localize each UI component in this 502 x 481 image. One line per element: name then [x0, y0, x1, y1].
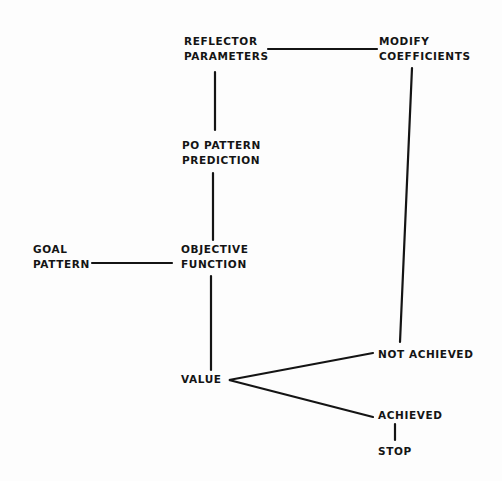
node-label-line1: MODIFY: [379, 34, 471, 49]
node-label-line2: PATTERN: [33, 257, 90, 272]
node-label-line1: REFLECTOR: [184, 34, 269, 49]
node-label: STOP: [378, 444, 412, 459]
node-label-line1: OBJECTIVE: [181, 242, 248, 257]
node-objective-function: OBJECTIVE FUNCTION: [181, 242, 248, 272]
node-label-line2: PREDICTION: [182, 153, 261, 168]
node-label: ACHIEVED: [378, 408, 443, 423]
node-achieved: ACHIEVED: [378, 408, 443, 423]
edge-value-fork: [229, 353, 373, 417]
node-label-line1: PO PATTERN: [182, 138, 261, 153]
flowchart-canvas: REFLECTOR PARAMETERS MODIFY COEFFICIENTS…: [0, 0, 502, 481]
node-label-line2: PARAMETERS: [184, 49, 269, 64]
node-modify-coefficients: MODIFY COEFFICIENTS: [379, 34, 471, 64]
node-label-line2: FUNCTION: [181, 257, 248, 272]
node-reflector-parameters: REFLECTOR PARAMETERS: [184, 34, 269, 64]
node-label-line1: GOAL: [33, 242, 90, 257]
node-not-achieved: NOT ACHIEVED: [378, 347, 473, 362]
node-label: NOT ACHIEVED: [378, 347, 473, 362]
node-stop: STOP: [378, 444, 412, 459]
node-label: VALUE: [181, 372, 222, 387]
node-label-line2: COEFFICIENTS: [379, 49, 471, 64]
edge-not-achieved-to-modify: [400, 68, 412, 342]
node-goal-pattern: GOAL PATTERN: [33, 242, 90, 272]
node-po-pattern-prediction: PO PATTERN PREDICTION: [182, 138, 261, 168]
node-value: VALUE: [181, 372, 222, 387]
